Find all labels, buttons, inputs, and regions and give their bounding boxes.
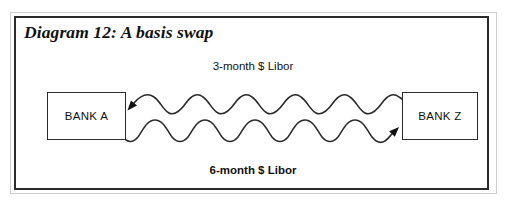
bank-a-box: BANK A	[47, 92, 126, 140]
diagram-screenshot: Diagram 12: A basis swap 3-month $ Libor…	[0, 0, 506, 205]
bank-a-label: BANK A	[65, 110, 108, 122]
bank-z-label: BANK Z	[418, 110, 461, 122]
bank-z-box: BANK Z	[402, 92, 478, 140]
top-leg-label: 3-month $ Libor	[0, 60, 506, 72]
figure-title: Diagram 12: A basis swap	[24, 22, 213, 43]
bottom-leg-label: 6-month $ Libor	[0, 164, 506, 176]
